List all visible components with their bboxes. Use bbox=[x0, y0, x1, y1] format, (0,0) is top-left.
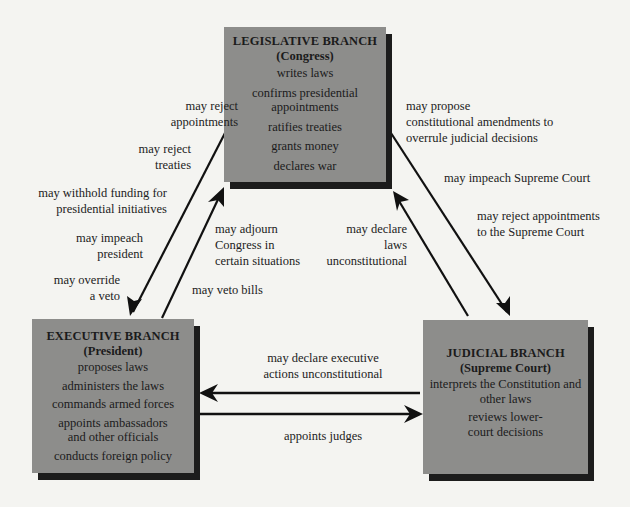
judicial-title: JUDICIAL BRANCH bbox=[423, 346, 588, 361]
executive-power: appoints ambassadors and other officials bbox=[32, 416, 194, 445]
judicial-subtitle: (Supreme Court) bbox=[423, 361, 588, 376]
legislative-powers-list: writes laws confirms presidential appoin… bbox=[224, 66, 386, 173]
legislative-power: declares war bbox=[224, 159, 386, 174]
arrow-executive-to-judicial bbox=[198, 405, 423, 423]
judicial-powers-list: interprets the Constitution and other la… bbox=[423, 377, 588, 439]
check-label-impeach-president: may impeach president bbox=[76, 230, 143, 262]
legislative-power: confirms presidential appointments bbox=[224, 86, 386, 115]
judicial-power: interprets the Constitution and other la… bbox=[423, 377, 588, 406]
check-label-appoints-judges: appoints judges bbox=[228, 428, 418, 444]
executive-branch-box: EXECUTIVE BRANCH (President) proposes la… bbox=[32, 319, 194, 473]
executive-title: EXECUTIVE BRANCH bbox=[32, 329, 194, 344]
executive-subtitle: (President) bbox=[32, 344, 194, 359]
check-label-propose-amendments: may propose constitutional amendments to… bbox=[406, 98, 553, 146]
check-label-adjourn-congress: may adjourn Congress in certain situatio… bbox=[215, 221, 300, 269]
executive-powers-list: proposes laws administers the laws comma… bbox=[32, 360, 194, 463]
check-label-veto-bills: may veto bills bbox=[192, 282, 263, 298]
legislative-title: LEGISLATIVE BRANCH bbox=[224, 34, 386, 49]
legislative-power: ratifies treaties bbox=[224, 120, 386, 135]
arrow-judicial-to-executive bbox=[199, 384, 420, 402]
legislative-subtitle: (Congress) bbox=[224, 49, 386, 64]
check-label-reject-court-appointments: may reject appointments to the Supreme C… bbox=[477, 208, 600, 240]
judicial-power: reviews lower-court decisions bbox=[423, 410, 588, 439]
executive-power: administers the laws bbox=[32, 379, 194, 394]
check-label-override-veto: may override a veto bbox=[54, 272, 120, 304]
check-label-reject-treaties: may reject treaties bbox=[139, 141, 191, 173]
checks-and-balances-diagram: LEGISLATIVE BRANCH (Congress) writes law… bbox=[0, 0, 630, 507]
executive-power: conducts foreign policy bbox=[32, 449, 194, 464]
check-label-impeach-supreme-court: may impeach Supreme Court bbox=[444, 170, 590, 186]
check-label-reject-appointments: may reject appointments bbox=[171, 98, 238, 130]
executive-power: commands armed forces bbox=[32, 397, 194, 412]
legislative-branch-box: LEGISLATIVE BRANCH (Congress) writes law… bbox=[224, 27, 386, 182]
check-label-declare-executive-actions-unconstitutional: may declare executive actions unconstitu… bbox=[228, 350, 418, 382]
check-label-withhold-funding: may withhold funding for presidential in… bbox=[38, 185, 167, 217]
legislative-power: grants money bbox=[224, 139, 386, 154]
executive-power: proposes laws bbox=[32, 360, 194, 375]
judicial-branch-box: JUDICIAL BRANCH (Supreme Court) interpre… bbox=[423, 320, 588, 474]
legislative-power: writes laws bbox=[224, 66, 386, 81]
check-label-declare-laws-unconstitutional: may declare laws unconstitutional bbox=[326, 221, 407, 269]
